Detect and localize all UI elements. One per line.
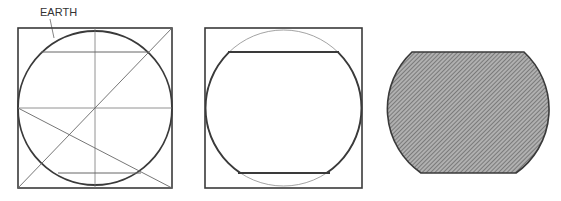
- figure-section: [387, 52, 549, 173]
- hatched-section: [387, 52, 549, 173]
- diagram-canvas: EARTH: [0, 0, 561, 201]
- earth-label: EARTH: [40, 6, 77, 18]
- figure-construction: EARTH: [18, 6, 172, 188]
- cut-circle: [206, 30, 362, 186]
- figure-outline: [205, 28, 362, 188]
